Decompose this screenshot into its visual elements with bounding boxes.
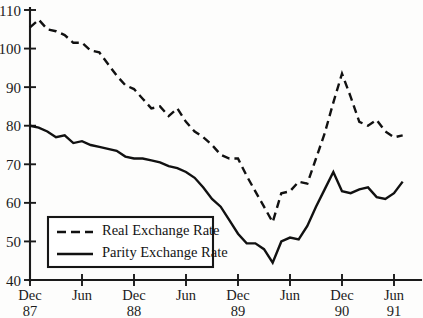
x-axis-year-label: 91 [387,303,402,318]
x-axis-tick-label: Jun [72,287,93,303]
x-axis-tick-label: Jun [176,287,197,303]
x-axis-year-label: 89 [231,303,246,318]
exchange-rate-chart: 405060708090100110 Dec87JunDec88JunDec89… [0,0,423,318]
x-axis-tick-label: Dec [226,287,249,303]
chart-canvas: 405060708090100110 Dec87JunDec88JunDec89… [0,0,423,318]
legend-label: Real Exchange Rate [102,222,220,238]
y-axis-tick-label: 80 [6,118,21,134]
x-axis-tick-label: Dec [122,287,145,303]
x-axis-year-label: 90 [335,303,350,318]
x-axis-tick-label: Jun [280,287,301,303]
y-axis-tick-label: 90 [6,80,21,96]
y-axis-tick-label: 70 [6,157,21,173]
x-axis-year-label: 87 [23,303,38,318]
x-axis-tick-label: Dec [330,287,353,303]
x-axis-tick-label: Dec [18,287,41,303]
y-axis-tick-label: 100 [0,41,21,57]
y-axis-tick-label: 110 [0,3,21,19]
y-axis-tick-label: 60 [6,195,21,211]
legend-label: Parity Exchange Rate [102,244,228,260]
x-axis-year-label: 88 [127,303,142,318]
x-axis-tick-label: Jun [384,287,405,303]
chart-legend: Real Exchange RateParity Exchange Rate [48,217,228,267]
y-axis-tick-label: 50 [6,234,21,250]
